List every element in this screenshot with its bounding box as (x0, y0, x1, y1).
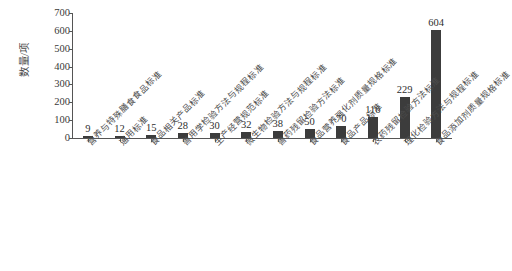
y-tick-mark (69, 31, 72, 32)
bar-value-label: 604 (416, 17, 456, 28)
y-tick-mark (69, 120, 72, 121)
y-tick-mark (69, 67, 72, 68)
y-tick-mark (69, 84, 72, 85)
y-tick-label: 500 (30, 44, 70, 54)
y-tick-label: 600 (30, 26, 70, 36)
y-tick-label: 0 (30, 133, 70, 143)
y-axis-line (72, 13, 73, 138)
x-axis-category-labels: 营养与特殊膳食食品标准通用标准食品相关产品标准兽用学检验方法与规程标准生产经营规… (72, 141, 460, 271)
y-tick-label: 300 (30, 79, 70, 89)
y-tick-mark (69, 13, 72, 14)
y-tick-label: 700 (30, 8, 70, 18)
y-tick-label: 400 (30, 62, 70, 72)
y-tick-mark (69, 138, 72, 139)
y-axis-tick-labels: 0100200300400500600700 (26, 0, 70, 271)
y-tick-label: 100 (30, 115, 70, 125)
y-tick-mark (69, 49, 72, 50)
y-tick-mark (69, 102, 72, 103)
y-tick-label: 200 (30, 97, 70, 107)
